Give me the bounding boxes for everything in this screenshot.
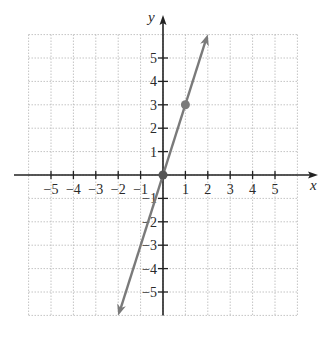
- y-tick-label: 5: [150, 51, 157, 66]
- x-tick-label: −3: [88, 182, 103, 197]
- coordinate-plane: −5−4−3−2−112345−5−4−3−2−112345 x y: [0, 0, 330, 341]
- x-tick-label: −4: [66, 182, 81, 197]
- y-tick-label: −4: [142, 262, 157, 277]
- y-tick-label: 2: [150, 121, 157, 136]
- x-tick-label: 1: [182, 182, 189, 197]
- x-tick-label: 5: [272, 182, 279, 197]
- plotted-point: [181, 100, 190, 109]
- x-tick-label: −2: [111, 182, 126, 197]
- y-tick-label: −3: [142, 238, 157, 253]
- y-tick-label: −5: [142, 285, 157, 300]
- x-tick-label: 3: [227, 182, 234, 197]
- y-tick-label: 1: [150, 145, 157, 160]
- y-axis-label: y: [146, 9, 155, 25]
- x-tick-label: 2: [204, 182, 211, 197]
- x-axis-label: x: [309, 177, 317, 193]
- x-tick-label: 4: [249, 182, 256, 197]
- y-tick-label: 3: [150, 98, 157, 113]
- x-tick-label: −5: [44, 182, 59, 197]
- y-tick-label: 4: [150, 74, 157, 89]
- plotted-point: [159, 171, 168, 180]
